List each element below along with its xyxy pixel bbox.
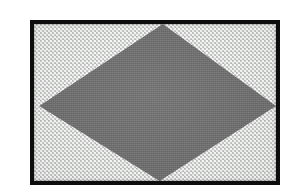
figure-canvas (0, 0, 302, 195)
plate-frame (30, 20, 280, 185)
plate-interior (34, 24, 276, 181)
